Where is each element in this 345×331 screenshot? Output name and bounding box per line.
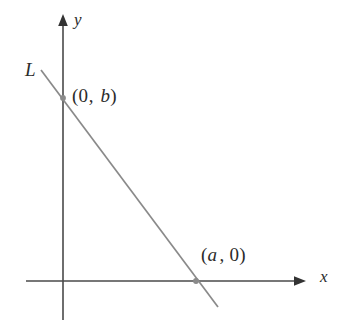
point-label-x-intercept: (a , 0) [201, 245, 246, 264]
point-label-y-intercept: (0, b) [72, 86, 117, 105]
line-L [41, 70, 218, 307]
paren-close: ) [239, 244, 246, 265]
coordinate-plane-graphic [0, 0, 345, 331]
paren-close: ) [110, 85, 117, 106]
point-marker-y-intercept [60, 95, 66, 101]
figure-canvas: y x L (0, b) (a , 0) [0, 0, 345, 331]
y-axis-arrowhead [58, 14, 68, 26]
coordinate-separator: , [219, 244, 224, 265]
coordinate-separator: , [88, 85, 93, 106]
y-axis-label: y [74, 11, 82, 28]
x-axis-label: x [320, 268, 328, 285]
point-marker-x-intercept [193, 278, 199, 284]
coordinate-y-value: 0 [229, 244, 239, 265]
coordinate-y-value: b [100, 85, 110, 106]
line-label-L: L [25, 60, 36, 79]
coordinate-x-value: 0 [79, 85, 89, 106]
coordinate-x-value: a [208, 244, 218, 265]
x-axis-arrowhead [294, 276, 306, 286]
